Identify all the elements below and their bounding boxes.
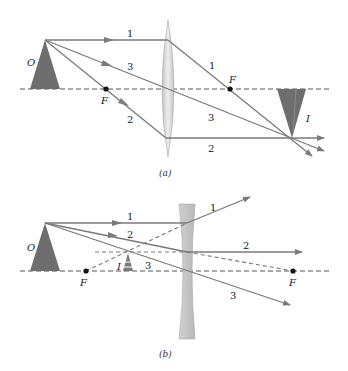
ray-label-3-out-b: 3 <box>230 290 236 301</box>
ray-label-2-out-b: 2 <box>243 240 249 251</box>
focal-label-left-a: F <box>100 95 109 106</box>
ray-label-3-in-a: 3 <box>127 61 133 72</box>
ray-label-1-out-b: 1 <box>210 202 216 213</box>
focal-label-left-b: F <box>79 277 88 288</box>
ray-1-refracted-b <box>187 197 250 223</box>
object-label-a: O <box>27 57 35 68</box>
ray-1-virtual-b <box>86 223 187 271</box>
focal-point-right-a <box>227 86 232 91</box>
image-label-b: I <box>116 261 122 272</box>
focal-point-left-a <box>103 86 108 91</box>
ray-label-2-in-b: 2 <box>127 229 133 240</box>
focal-label-right-b: F <box>288 277 297 288</box>
ray-2-virtual-b <box>187 252 293 271</box>
ray-2-incident-b <box>45 223 187 252</box>
image-label-a: I <box>305 113 311 124</box>
ray-label-1-out-a: 1 <box>209 60 215 71</box>
object-label-b: O <box>27 242 35 253</box>
ray-label-1-in-a: 1 <box>127 28 133 39</box>
ray-label-3-in-b: 3 <box>145 260 151 271</box>
ray-label-1-in-b: 1 <box>127 211 133 222</box>
caption-b: (b) <box>159 349 172 359</box>
ray-label-3-out-a: 3 <box>208 112 214 123</box>
focal-point-right-b <box>290 268 295 273</box>
panel-a-converging-lens: O I F F 1 1 3 3 2 2 (a) <box>20 20 332 178</box>
focal-point-left-b <box>83 268 88 273</box>
caption-a: (a) <box>159 168 172 178</box>
ray-diagram: O I F F 1 1 3 3 2 2 (a) <box>0 0 348 371</box>
ray-label-2-out-a: 2 <box>208 143 214 154</box>
panel-b-diverging-lens: O I F F 1 1 2 2 3 3 (b) <box>20 197 332 359</box>
ray-label-2-in-a: 2 <box>127 114 133 125</box>
ray-3-b <box>45 223 290 305</box>
focal-label-right-a: F <box>228 74 237 85</box>
